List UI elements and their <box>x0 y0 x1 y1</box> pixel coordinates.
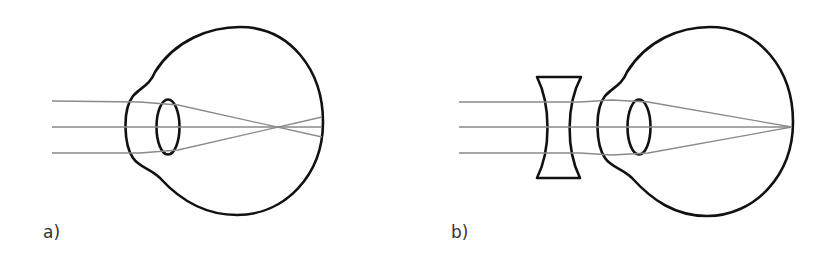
panel-b <box>459 27 793 216</box>
eyeball-outline-a <box>125 27 323 215</box>
figure-canvas: a) b) <box>0 0 816 270</box>
panel-a <box>52 27 323 215</box>
light-rays-b <box>459 100 792 155</box>
eye-diagram <box>0 0 816 270</box>
panel-label-b: b) <box>451 222 468 242</box>
panel-label-a: a) <box>43 222 60 242</box>
light-rays-a <box>52 101 322 153</box>
